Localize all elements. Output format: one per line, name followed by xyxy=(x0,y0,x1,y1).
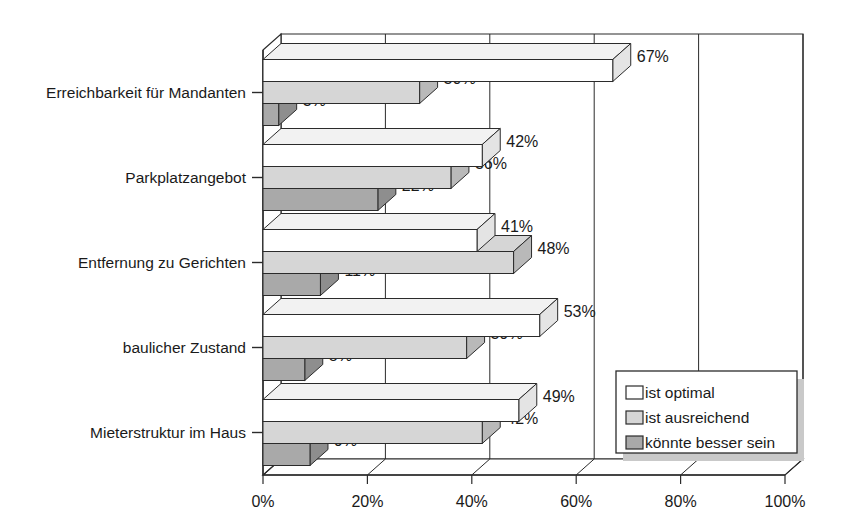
legend-swatch xyxy=(626,411,643,424)
bar-front-face xyxy=(263,422,482,444)
bar-top-face xyxy=(263,214,495,230)
bar-front-face xyxy=(263,189,378,211)
legend-item[interactable]: ist ausreichend xyxy=(626,409,749,426)
x-tick-label: 60% xyxy=(560,493,592,510)
legend-label: ist ausreichend xyxy=(645,409,749,426)
category-label: Parkplatzangebot xyxy=(125,169,246,186)
bar-value-label: 42% xyxy=(506,133,538,150)
bar-chart: 9%42%49%8%39%53%11%48%41%22%36%42%3%30%6… xyxy=(0,0,843,532)
category-label: Erreichbarkeit für Mandanten xyxy=(46,84,246,101)
category-label: baulicher Zustand xyxy=(123,339,246,356)
legend-label: ist optimal xyxy=(645,384,715,401)
legend-swatch xyxy=(626,386,643,399)
bar[interactable]: 67% xyxy=(263,44,669,82)
chart-container: 9%42%49%8%39%53%11%48%41%22%36%42%3%30%6… xyxy=(0,0,843,532)
x-tick-label: 80% xyxy=(665,493,697,510)
bar-value-label: 67% xyxy=(637,48,669,65)
bar-front-face xyxy=(263,274,320,296)
bar-front-face xyxy=(263,337,467,359)
bar-top-face xyxy=(263,129,500,145)
x-tick-label: 20% xyxy=(351,493,383,510)
bar-front-face xyxy=(263,252,514,274)
legend: ist optimalist ausreichendkönnte besser … xyxy=(616,371,804,461)
x-tick-label: 100% xyxy=(765,493,806,510)
x-tick-label: 40% xyxy=(456,493,488,510)
category-label: Mieterstruktur im Haus xyxy=(90,424,246,441)
legend-label: könnte besser sein xyxy=(645,434,775,451)
bar-value-label: 41% xyxy=(501,218,533,235)
bar-front-face xyxy=(263,60,613,82)
chart-floor xyxy=(263,459,803,475)
bar-value-label: 48% xyxy=(538,240,570,257)
bar[interactable]: 53% xyxy=(263,299,596,337)
legend-item[interactable]: könnte besser sein xyxy=(626,434,775,451)
bar-front-face xyxy=(263,400,519,422)
bar-front-face xyxy=(263,82,420,104)
bar-front-face xyxy=(263,359,305,381)
bar-front-face xyxy=(263,315,540,337)
bar-front-face xyxy=(263,167,451,189)
legend-swatch xyxy=(626,436,643,449)
legend-item[interactable]: ist optimal xyxy=(626,384,715,401)
bar-top-face xyxy=(263,384,537,400)
bar-front-face xyxy=(263,104,279,126)
bar-top-face xyxy=(263,44,631,60)
x-tick-label: 0% xyxy=(251,493,274,510)
category-label: Entfernung zu Gerichten xyxy=(78,254,246,271)
bar-top-face xyxy=(263,299,558,315)
bar-front-face xyxy=(263,444,310,466)
bar-front-face xyxy=(263,145,482,167)
bar-value-label: 49% xyxy=(543,388,575,405)
bar-value-label: 53% xyxy=(564,303,596,320)
bar-front-face xyxy=(263,230,477,252)
